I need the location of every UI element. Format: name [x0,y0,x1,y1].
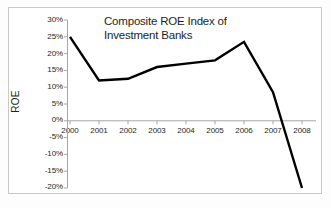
series-line-composite-roe [70,37,302,188]
chart-plot-area [0,0,331,208]
y-tick-marks [64,20,68,188]
chart-figure: ROE Composite ROE Index of Investment Ba… [0,0,331,208]
x-tick-marks [70,121,302,125]
